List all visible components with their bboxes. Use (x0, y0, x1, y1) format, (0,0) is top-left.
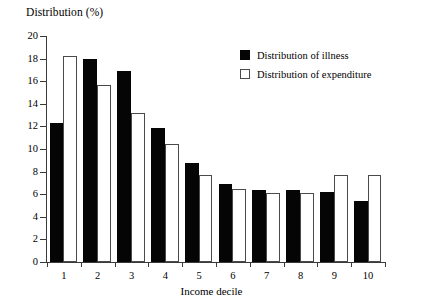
bar-illness-decile-5 (185, 163, 199, 262)
x-tick-mark (284, 262, 285, 267)
bar-illness-decile-6 (219, 184, 233, 262)
x-tick-mark (351, 262, 352, 267)
legend-item-expenditure: Distribution of expenditure (240, 66, 371, 82)
y-tick-label: 10 (0, 144, 38, 154)
bar-illness-decile-10 (354, 201, 368, 262)
bar-illness-decile-3 (117, 71, 131, 262)
y-tick-mark (40, 81, 46, 82)
bar-illness-decile-4 (151, 128, 165, 262)
bar-illness-decile-7 (252, 190, 266, 262)
y-tick-label: 0 (0, 257, 38, 267)
y-tick-label: 4 (0, 212, 38, 222)
y-tick-label: 20 (0, 31, 38, 41)
x-tick-label: 9 (319, 270, 349, 281)
x-tick-mark (250, 262, 251, 267)
x-tick-label: 10 (353, 270, 383, 281)
y-tick-mark (40, 126, 46, 127)
x-tick-label: 8 (286, 270, 316, 281)
y-tick-mark (40, 194, 46, 195)
bar-expenditure-decile-1 (63, 56, 77, 262)
bar-expenditure-decile-4 (165, 144, 179, 262)
x-tick-label: 2 (83, 270, 113, 281)
x-tick-mark (81, 262, 82, 267)
y-tick-label: 14 (0, 99, 38, 109)
y-tick-mark (40, 149, 46, 150)
bar-illness-decile-2 (83, 59, 97, 262)
y-tick-mark (40, 262, 46, 263)
y-tick-mark (40, 239, 46, 240)
y-tick-label: 2 (0, 234, 38, 244)
bar-illness-decile-8 (286, 190, 300, 262)
x-tick-mark (115, 262, 116, 267)
x-tick-label: 7 (252, 270, 282, 281)
bar-expenditure-decile-7 (266, 193, 280, 262)
legend-label-illness: Distribution of illness (257, 50, 349, 61)
legend-item-illness: Distribution of illness (240, 47, 371, 63)
legend-label-expenditure: Distribution of expenditure (257, 69, 371, 80)
x-tick-mark (385, 262, 386, 267)
bar-expenditure-decile-2 (97, 85, 111, 262)
chart-legend: Distribution of illness Distribution of … (240, 47, 371, 85)
y-tick-label: 16 (0, 76, 38, 86)
y-tick-mark (40, 104, 46, 105)
y-tick-label: 8 (0, 167, 38, 177)
bar-expenditure-decile-6 (232, 189, 246, 262)
bar-chart: Distribution (%) 02468101214161820 12345… (0, 0, 423, 303)
y-tick-mark (40, 59, 46, 60)
x-axis-title: Income decile (0, 285, 423, 297)
y-tick-label: 12 (0, 121, 38, 131)
y-tick-mark (40, 217, 46, 218)
open-square-icon (240, 69, 250, 79)
x-tick-mark (317, 262, 318, 267)
x-tick-label: 6 (218, 270, 248, 281)
bar-illness-decile-9 (320, 192, 334, 262)
bar-expenditure-decile-8 (300, 193, 314, 262)
y-tick-mark (40, 36, 46, 37)
x-tick-mark (148, 262, 149, 267)
x-tick-label: 4 (150, 270, 180, 281)
y-tick-label: 6 (0, 189, 38, 199)
x-tick-mark (216, 262, 217, 267)
x-tick-label: 1 (49, 270, 79, 281)
y-tick-mark (40, 172, 46, 173)
bar-expenditure-decile-9 (334, 175, 348, 262)
bar-expenditure-decile-5 (199, 175, 213, 262)
x-tick-label: 5 (184, 270, 214, 281)
x-tick-label: 3 (117, 270, 147, 281)
y-axis-title: Distribution (%) (26, 6, 103, 18)
y-tick-label: 18 (0, 54, 38, 64)
x-tick-mark (182, 262, 183, 267)
bar-expenditure-decile-3 (131, 113, 145, 262)
x-tick-mark (47, 262, 48, 267)
filled-square-icon (240, 50, 250, 60)
bar-expenditure-decile-10 (368, 175, 382, 262)
bar-illness-decile-1 (50, 123, 64, 262)
